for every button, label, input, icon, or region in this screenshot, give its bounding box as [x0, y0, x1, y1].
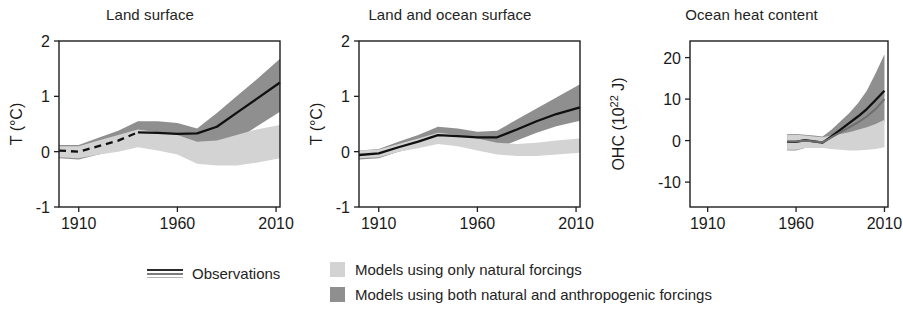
y-tick-label: 2: [41, 33, 50, 50]
y-tick-label: 1: [41, 88, 50, 105]
y-tick-label: 0: [341, 144, 350, 161]
y-tick-label: -1: [36, 199, 50, 216]
panel-row: Land surface 191019602010-1012T (°C) Lan…: [0, 0, 903, 240]
y-tick-label: -10: [658, 174, 681, 191]
y-tick-label: 0: [672, 133, 681, 150]
y-axis-label: T (°C): [308, 103, 325, 146]
panel-ocean-heat-content: Ocean heat content 191019602010-1001020O…: [600, 0, 903, 240]
plot-land-surface: 191019602010-1012T (°C): [0, 0, 300, 240]
panel-land-surface: Land surface 191019602010-1012T (°C): [0, 0, 300, 240]
legend-label-observations: Observations: [192, 265, 280, 282]
y-tick-label: 2: [341, 33, 350, 50]
legend-item-natural-forcings: Models using only natural forcings: [330, 257, 712, 282]
x-tick-label: 1910: [361, 215, 397, 232]
panel-title-ocean-heat-content: Ocean heat content: [600, 6, 903, 23]
legend-label-anthropogenic-forcings: Models using both natural and anthropoge…: [355, 286, 712, 303]
y-axis-label: OHC (1022 J): [608, 77, 627, 170]
y-tick-label: -1: [336, 199, 350, 216]
legend-models-group: Models using only natural forcings Model…: [330, 257, 712, 307]
swatch-natural-forcings: [330, 262, 345, 277]
figure-legend: Observations Models using only natural f…: [0, 243, 903, 326]
legend-label-natural-forcings: Models using only natural forcings: [355, 261, 582, 278]
y-tick-label: 0: [41, 144, 50, 161]
x-tick-label: 1960: [778, 215, 814, 232]
x-tick-label: 2010: [867, 215, 903, 232]
y-tick-label: 1: [341, 88, 350, 105]
y-axis-label: T (°C): [8, 103, 25, 146]
x-tick-label: 1910: [61, 215, 97, 232]
y-tick-label: 10: [663, 91, 681, 108]
x-tick-label: 2010: [558, 215, 594, 232]
panel-title-land-and-ocean-surface: Land and ocean surface: [300, 6, 600, 23]
legend-item-anthropogenic-forcings: Models using both natural and anthropoge…: [330, 282, 712, 307]
legend-item-observations: Observations: [147, 265, 280, 282]
plot-land-and-ocean-surface: 191019602010-1012T (°C): [300, 0, 600, 240]
x-tick-label: 2010: [258, 215, 294, 232]
climate-attribution-figure: Land surface 191019602010-1012T (°C) Lan…: [0, 0, 903, 326]
y-tick-label: 20: [663, 50, 681, 67]
swatch-anthropogenic-forcings: [330, 287, 345, 302]
x-tick-label: 1910: [690, 215, 726, 232]
x-tick-label: 1960: [160, 215, 196, 232]
observations-line-icon: [147, 267, 183, 281]
plot-ocean-heat-content: 191019602010-1001020OHC (1022 J): [600, 0, 903, 240]
panel-land-and-ocean-surface: Land and ocean surface 191019602010-1012…: [300, 0, 600, 240]
x-tick-label: 1960: [460, 215, 496, 232]
panel-title-land-surface: Land surface: [0, 6, 300, 23]
